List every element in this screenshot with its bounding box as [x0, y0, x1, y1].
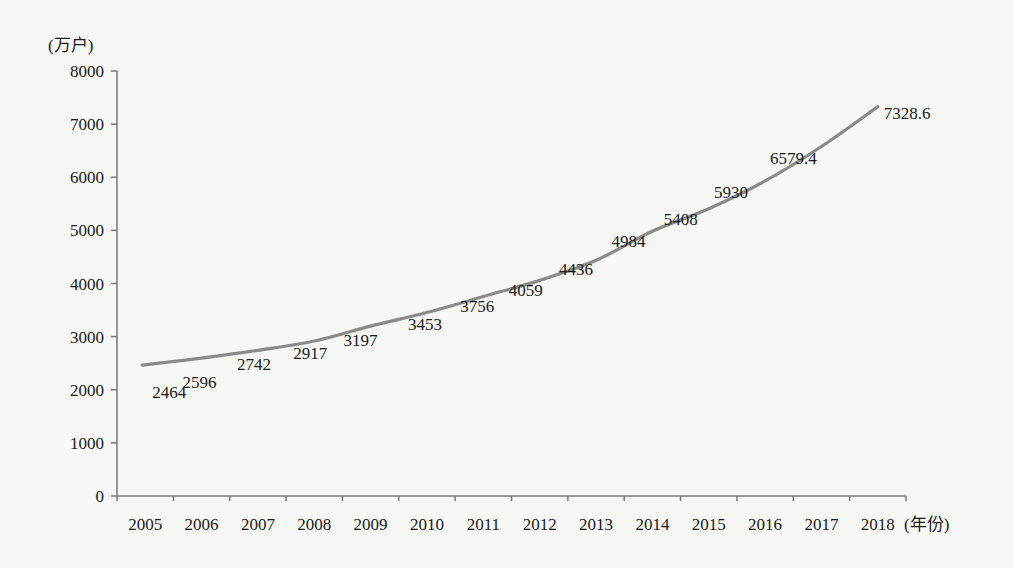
- data-point-label: 2917: [293, 344, 328, 363]
- y-axis: 010002000300040005000600070008000: [70, 62, 117, 506]
- chart-canvas: (万户) 010002000300040005000600070008000 2…: [0, 0, 1013, 568]
- y-tick-label: 0: [96, 487, 105, 506]
- data-point-label: 4059: [509, 281, 543, 300]
- y-tick-label: 4000: [70, 275, 104, 294]
- data-point-label: 3756: [460, 297, 494, 316]
- data-point-label: 2596: [183, 373, 217, 392]
- x-axis: 2005200620072008200920102011201220132014…: [117, 496, 906, 534]
- y-axis-unit-label: (万户): [48, 36, 93, 55]
- data-point-label: 2742: [237, 355, 271, 374]
- data-point-label: 6579.4: [770, 149, 817, 168]
- y-tick-label: 8000: [70, 62, 104, 81]
- x-tick-label: 2013: [579, 515, 613, 534]
- x-unit-text: (年份): [904, 515, 949, 534]
- data-point-label: 3197: [344, 331, 379, 350]
- x-tick-label: 2010: [410, 515, 444, 534]
- data-point-label: 4436: [559, 260, 593, 279]
- data-point-label: 5930: [714, 183, 748, 202]
- data-point-label: 4984: [611, 232, 646, 251]
- x-tick-label: 2009: [354, 515, 388, 534]
- x-tick-label: 2016: [748, 515, 782, 534]
- data-point-label: 5408: [664, 210, 698, 229]
- x-tick-label: 2015: [692, 515, 726, 534]
- x-tick-label: 2012: [523, 515, 557, 534]
- x-tick-label: 2008: [297, 515, 331, 534]
- data-labels: 2464259627422917319734533756405944364984…: [152, 104, 930, 402]
- data-point-label: 3453: [408, 315, 442, 334]
- x-tick-label: 2006: [185, 515, 219, 534]
- data-point-label: 2464: [152, 383, 187, 402]
- data-series-line: [142, 107, 878, 365]
- y-tick-label: 5000: [70, 221, 104, 240]
- line-chart: (万户) 010002000300040005000600070008000 2…: [0, 0, 1013, 568]
- y-tick-label: 2000: [70, 381, 104, 400]
- y-tick-label: 3000: [70, 328, 104, 347]
- x-tick-label: 2005: [128, 515, 162, 534]
- x-tick-label: 2017: [804, 515, 839, 534]
- series-path: [142, 107, 878, 365]
- data-point-label: 7328.6: [884, 104, 931, 123]
- x-tick-label: 2007: [241, 515, 276, 534]
- x-tick-label: 2018: [861, 515, 895, 534]
- y-tick-label: 1000: [70, 434, 104, 453]
- x-tick-label: 2011: [467, 515, 500, 534]
- x-axis-unit-label: (年份): [904, 515, 949, 534]
- x-tick-label: 2014: [635, 515, 670, 534]
- y-unit-text: (万户): [48, 36, 93, 55]
- y-tick-label: 6000: [70, 168, 104, 187]
- y-tick-label: 7000: [70, 115, 104, 134]
